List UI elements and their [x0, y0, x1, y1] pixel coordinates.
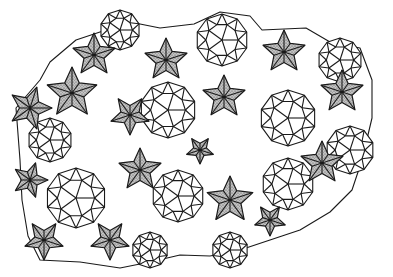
decagon-rosette — [47, 168, 104, 228]
decagon-rosette — [261, 90, 314, 146]
decagon-rosette — [197, 14, 246, 66]
decagon-rosette — [263, 158, 312, 210]
decagon-rosette — [153, 170, 202, 222]
decagon-rosette — [133, 232, 167, 268]
tiling-diagram — [0, 0, 393, 277]
decagon-rosette — [141, 82, 194, 138]
decagon-rosette — [101, 10, 139, 50]
decagon-rosette — [213, 232, 247, 268]
decagon-rosette — [327, 126, 373, 174]
